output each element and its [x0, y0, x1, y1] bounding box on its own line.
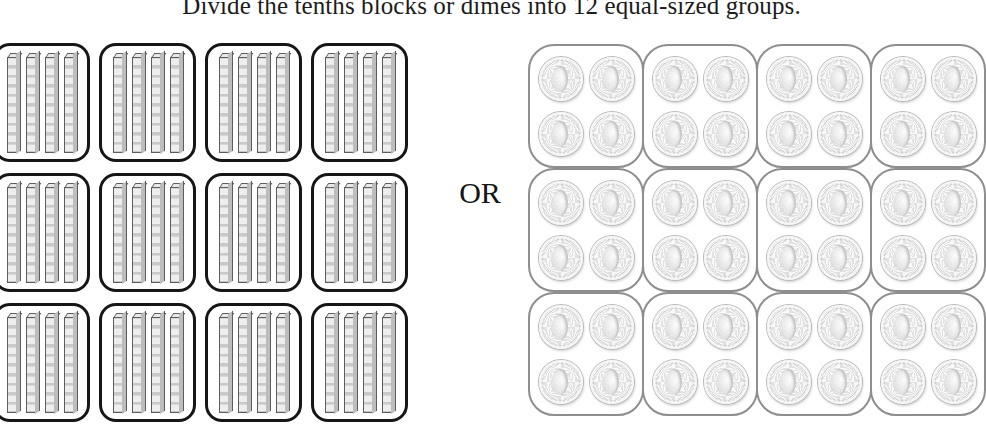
dime-group[interactable]: [528, 292, 644, 416]
tenths-rod[interactable]: [363, 183, 375, 283]
tenths-rod[interactable]: [151, 313, 163, 413]
dime-coin-icon[interactable]: [539, 236, 583, 280]
dime-coin-icon[interactable]: [704, 57, 748, 101]
dime-coin-icon[interactable]: [767, 360, 811, 404]
dime-coin-icon[interactable]: [704, 236, 748, 280]
tenths-rod[interactable]: [170, 313, 182, 413]
tenths-rod[interactable]: [257, 183, 269, 283]
dime-coin-icon[interactable]: [818, 112, 862, 156]
dime-coin-icon[interactable]: [932, 181, 976, 225]
dime-coin-icon[interactable]: [881, 236, 925, 280]
tenths-rod[interactable]: [26, 183, 38, 283]
dime-coin-icon[interactable]: [653, 181, 697, 225]
tenths-block-group[interactable]: [311, 43, 408, 162]
dime-coin-icon[interactable]: [539, 360, 583, 404]
dime-coin-icon[interactable]: [704, 181, 748, 225]
tenths-rod[interactable]: [219, 53, 231, 153]
tenths-rod[interactable]: [363, 53, 375, 153]
dime-coin-icon[interactable]: [932, 305, 976, 349]
tenths-block-group[interactable]: [0, 43, 90, 162]
tenths-rod[interactable]: [26, 313, 38, 413]
tenths-rod[interactable]: [132, 183, 144, 283]
tenths-rod[interactable]: [7, 53, 19, 153]
tenths-rod[interactable]: [344, 183, 356, 283]
dime-coin-icon[interactable]: [818, 236, 862, 280]
tenths-rod[interactable]: [219, 313, 231, 413]
tenths-block-group[interactable]: [99, 173, 196, 292]
dime-group[interactable]: [756, 168, 872, 292]
dime-group[interactable]: [870, 44, 986, 168]
dime-coin-icon[interactable]: [818, 181, 862, 225]
tenths-block-group[interactable]: [0, 173, 90, 292]
dime-coin-icon[interactable]: [818, 360, 862, 404]
dime-coin-icon[interactable]: [932, 236, 976, 280]
tenths-rod[interactable]: [132, 53, 144, 153]
dime-coin-icon[interactable]: [653, 360, 697, 404]
dime-coin-icon[interactable]: [818, 57, 862, 101]
tenths-block-group[interactable]: [311, 173, 408, 292]
tenths-rod[interactable]: [219, 183, 231, 283]
tenths-rod[interactable]: [170, 53, 182, 153]
tenths-rod[interactable]: [325, 53, 337, 153]
tenths-rod[interactable]: [132, 313, 144, 413]
tenths-rod[interactable]: [276, 53, 288, 153]
tenths-rod[interactable]: [276, 183, 288, 283]
tenths-rod[interactable]: [363, 313, 375, 413]
tenths-rod[interactable]: [238, 313, 250, 413]
tenths-rod[interactable]: [26, 53, 38, 153]
dime-coin-icon[interactable]: [767, 181, 811, 225]
dime-coin-icon[interactable]: [881, 57, 925, 101]
tenths-rod[interactable]: [325, 313, 337, 413]
tenths-rod[interactable]: [113, 53, 125, 153]
tenths-rod[interactable]: [238, 183, 250, 283]
dime-coin-icon[interactable]: [653, 112, 697, 156]
tenths-rod[interactable]: [151, 53, 163, 153]
dime-coin-icon[interactable]: [653, 305, 697, 349]
tenths-rod[interactable]: [325, 183, 337, 283]
dime-coin-icon[interactable]: [704, 305, 748, 349]
tenths-block-group[interactable]: [99, 43, 196, 162]
dime-coin-icon[interactable]: [932, 360, 976, 404]
tenths-rod[interactable]: [257, 313, 269, 413]
dime-coin-icon[interactable]: [590, 236, 634, 280]
dime-group[interactable]: [528, 168, 644, 292]
dime-group[interactable]: [642, 292, 758, 416]
dime-coin-icon[interactable]: [767, 236, 811, 280]
tenths-rod[interactable]: [344, 313, 356, 413]
tenths-rod[interactable]: [344, 53, 356, 153]
dime-coin-icon[interactable]: [818, 305, 862, 349]
tenths-block-group[interactable]: [205, 173, 302, 292]
tenths-rod[interactable]: [45, 183, 57, 283]
dime-coin-icon[interactable]: [767, 305, 811, 349]
tenths-rod[interactable]: [113, 183, 125, 283]
tenths-rod[interactable]: [382, 53, 394, 153]
dime-group[interactable]: [870, 168, 986, 292]
tenths-block-group[interactable]: [205, 43, 302, 162]
tenths-rod[interactable]: [151, 183, 163, 283]
dime-coin-icon[interactable]: [590, 360, 634, 404]
tenths-rod[interactable]: [64, 313, 76, 413]
dime-coin-icon[interactable]: [767, 57, 811, 101]
dime-coin-icon[interactable]: [539, 112, 583, 156]
tenths-rod[interactable]: [45, 313, 57, 413]
tenths-rod[interactable]: [64, 53, 76, 153]
dime-coin-icon[interactable]: [590, 181, 634, 225]
dime-coin-icon[interactable]: [881, 112, 925, 156]
tenths-block-group[interactable]: [311, 303, 408, 422]
dime-coin-icon[interactable]: [932, 112, 976, 156]
dime-coin-icon[interactable]: [767, 112, 811, 156]
tenths-rod[interactable]: [276, 313, 288, 413]
dime-coin-icon[interactable]: [881, 305, 925, 349]
tenths-rod[interactable]: [238, 53, 250, 153]
dime-coin-icon[interactable]: [881, 360, 925, 404]
dime-group[interactable]: [756, 292, 872, 416]
dime-coin-icon[interactable]: [539, 57, 583, 101]
dime-coin-icon[interactable]: [539, 181, 583, 225]
dime-group[interactable]: [756, 44, 872, 168]
dime-coin-icon[interactable]: [590, 57, 634, 101]
tenths-rod[interactable]: [45, 53, 57, 153]
tenths-rod[interactable]: [7, 313, 19, 413]
dime-group[interactable]: [642, 44, 758, 168]
dime-coin-icon[interactable]: [590, 112, 634, 156]
dime-coin-icon[interactable]: [590, 305, 634, 349]
